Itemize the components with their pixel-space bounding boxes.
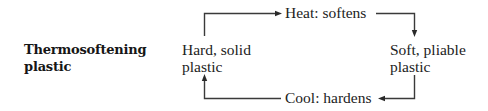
cool-arrowhead-up-icon xyxy=(202,74,207,81)
cool-connector-in xyxy=(384,75,415,99)
heat-connector-in xyxy=(205,14,278,37)
heat-arrowhead-down-icon xyxy=(412,30,417,37)
heat-connector-out xyxy=(376,14,415,32)
cycle-arrows xyxy=(0,0,488,111)
cool-connector-out xyxy=(205,80,282,99)
heat-arrowhead-right-icon xyxy=(275,11,282,16)
cool-arrowhead-left-icon xyxy=(378,96,385,101)
